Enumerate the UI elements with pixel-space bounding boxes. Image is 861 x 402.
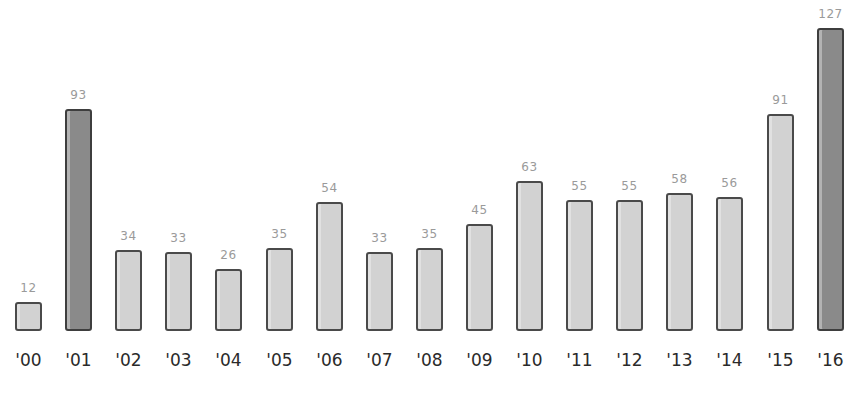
value-label: 33 xyxy=(154,231,204,245)
category-label: '11 xyxy=(555,350,605,370)
category-label: '14 xyxy=(705,350,755,370)
value-label: 35 xyxy=(405,227,455,241)
value-label: 91 xyxy=(756,93,806,107)
bar xyxy=(566,200,593,331)
category-label: '15 xyxy=(756,350,806,370)
value-label: 93 xyxy=(54,88,104,102)
category-label: '03 xyxy=(154,350,204,370)
category-label: '02 xyxy=(104,350,154,370)
category-label: '09 xyxy=(455,350,505,370)
category-label: '07 xyxy=(355,350,405,370)
value-label: 63 xyxy=(505,160,555,174)
bar xyxy=(316,202,343,331)
value-label: 45 xyxy=(455,203,505,217)
value-label: 58 xyxy=(655,172,705,186)
value-label: 127 xyxy=(806,7,856,21)
category-label: '04 xyxy=(204,350,254,370)
bar xyxy=(817,28,844,331)
bar-chart: 12'0093'0134'0233'0326'0435'0554'0633'07… xyxy=(0,0,861,402)
bar xyxy=(466,224,493,331)
bar xyxy=(65,109,92,331)
bar xyxy=(616,200,643,331)
bar xyxy=(767,114,794,331)
bar xyxy=(266,248,293,331)
category-label: '08 xyxy=(405,350,455,370)
bar xyxy=(666,193,693,331)
category-label: '00 xyxy=(4,350,54,370)
bar xyxy=(115,250,142,331)
category-label: '13 xyxy=(655,350,705,370)
category-label: '16 xyxy=(806,350,856,370)
value-label: 55 xyxy=(605,179,655,193)
bar xyxy=(165,252,192,331)
value-label: 56 xyxy=(705,176,755,190)
value-label: 54 xyxy=(305,181,355,195)
value-label: 33 xyxy=(355,231,405,245)
bar xyxy=(15,302,42,331)
bar xyxy=(716,197,743,331)
category-label: '01 xyxy=(54,350,104,370)
category-label: '06 xyxy=(305,350,355,370)
bar xyxy=(215,269,242,331)
bar xyxy=(416,248,443,331)
category-label: '05 xyxy=(255,350,305,370)
value-label: 35 xyxy=(255,227,305,241)
bar xyxy=(366,252,393,331)
value-label: 34 xyxy=(104,229,154,243)
value-label: 55 xyxy=(555,179,605,193)
category-label: '10 xyxy=(505,350,555,370)
bar xyxy=(516,181,543,331)
value-label: 26 xyxy=(204,248,254,262)
category-label: '12 xyxy=(605,350,655,370)
value-label: 12 xyxy=(4,281,54,295)
